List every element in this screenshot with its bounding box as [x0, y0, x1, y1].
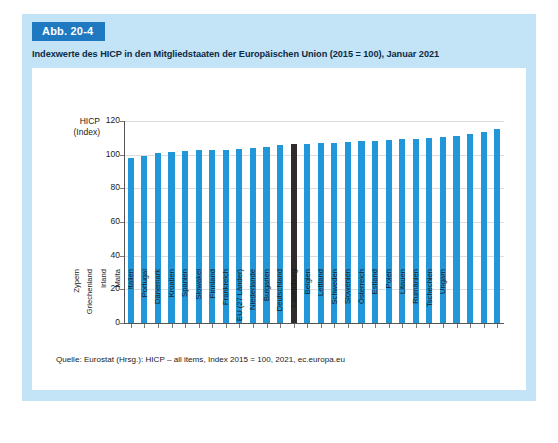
x-axis-label: Zypern — [72, 269, 81, 331]
y-axis-tick-label: 40 — [80, 250, 120, 260]
x-axis-label: Deutschland — [275, 269, 284, 331]
x-axis-label: Spanien — [180, 269, 189, 331]
x-axis-label: Belgien — [303, 269, 312, 331]
figure-title: Indexwerte des HICP in den Mitgliedstaat… — [32, 49, 527, 59]
figure-panel: Abb. 20-4 Indexwerte des HICP in den Mit… — [22, 14, 536, 401]
x-axis-label: Irland — [99, 269, 108, 331]
chart-plot-area: HICP (Index) 020406080100120 ZypernGriec… — [32, 68, 526, 390]
x-axis-label: Dänemark — [153, 269, 162, 331]
x-axis-label: EU (27 Länder) — [235, 269, 244, 331]
x-axis-tick-mark — [457, 324, 458, 328]
bar[interactable] — [481, 132, 487, 323]
x-axis-label: Portugal — [140, 269, 149, 331]
x-axis-label: Tschechien — [425, 269, 434, 331]
plot: 020406080100120 ZypernGriechenlandIrland… — [124, 121, 504, 323]
x-axis-label: Italien — [126, 269, 135, 331]
x-axis-label: Frankreich — [221, 269, 230, 331]
x-axis-label: Slowenien — [343, 269, 352, 331]
x-axis-tick-mark — [497, 324, 498, 328]
bar-slot[interactable] — [467, 121, 473, 323]
source-note: Quelle: Eurostat (Hrsg.): HICP – all ite… — [56, 355, 345, 364]
x-axis-label: Griechenland — [85, 269, 94, 331]
x-axis-label: Kroatien — [167, 269, 176, 331]
bar-slot[interactable] — [494, 121, 500, 323]
bar-slot[interactable] — [481, 121, 487, 323]
x-axis-label: Litauen — [398, 269, 407, 331]
x-axis-label: Niederlande — [248, 269, 257, 331]
bar[interactable] — [453, 136, 459, 323]
x-axis-label: Lettland — [316, 269, 325, 331]
x-axis-tick-mark — [470, 324, 471, 328]
bar[interactable] — [494, 129, 500, 323]
bar-slot[interactable] — [453, 121, 459, 323]
x-axis-label: Finnland — [208, 269, 217, 331]
x-axis-label: Österreich — [357, 269, 366, 331]
x-axis-label: Slowakei — [194, 269, 203, 331]
chart-card: HICP (Index) 020406080100120 ZypernGriec… — [32, 68, 526, 390]
y-axis-tick-label: 60 — [80, 216, 120, 226]
x-axis-label: Estland — [370, 269, 379, 331]
x-axis-label: Rumänien — [411, 269, 420, 331]
x-axis-label: Bulgarien — [262, 269, 271, 331]
bar[interactable] — [467, 134, 473, 323]
y-axis-tick-label: 80 — [80, 182, 120, 192]
figure-number-badge: Abb. 20-4 — [32, 22, 105, 41]
y-axis-title-line-2: (Index) — [44, 127, 100, 138]
x-axis-tick-mark — [484, 324, 485, 328]
x-axis-label: Malta — [113, 269, 122, 331]
x-axis-label: Schweden — [330, 269, 339, 331]
y-axis-tick-label: 100 — [80, 149, 120, 159]
x-axis-label: Luxemburg — [289, 269, 298, 331]
y-axis-tick-label: 120 — [80, 115, 120, 125]
x-axis-label: Polen — [384, 269, 393, 331]
x-axis-label: Ungarn — [438, 269, 447, 331]
